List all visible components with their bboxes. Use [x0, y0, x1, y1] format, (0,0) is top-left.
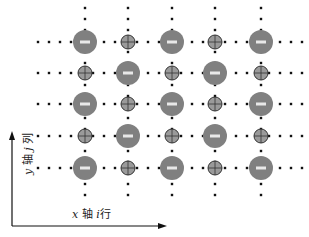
grid-dot	[301, 135, 303, 137]
anion-ion	[249, 156, 273, 180]
grid-dot	[37, 41, 39, 43]
grid-dot	[59, 135, 61, 137]
minus-icon	[80, 103, 90, 106]
x-axis-var: x	[72, 208, 78, 221]
grid-dot	[127, 7, 129, 9]
grid-dot	[158, 72, 160, 74]
y-axis-arrow-icon	[9, 131, 15, 140]
anion-ion	[203, 61, 227, 85]
grid-dot	[214, 183, 216, 185]
grid-dot	[114, 135, 116, 137]
grid-dot	[59, 72, 61, 74]
minus-icon	[167, 41, 177, 44]
grid-dot	[171, 18, 173, 20]
grid-dot	[48, 103, 50, 105]
anion-ion	[160, 156, 184, 180]
cation-ion	[165, 66, 179, 80]
grid-dot	[103, 41, 105, 43]
grid-dot	[84, 7, 86, 9]
grid-dot	[235, 135, 237, 137]
cation-ion	[78, 129, 92, 143]
grid-dot	[191, 103, 193, 105]
grid-dot	[70, 103, 72, 105]
minus-icon	[210, 72, 220, 75]
grid-dot	[290, 72, 292, 74]
grid-dot	[171, 62, 173, 64]
grid-dot	[191, 41, 193, 43]
grid-dot	[103, 135, 105, 137]
grid-dot	[246, 135, 248, 137]
grid-dot	[260, 117, 262, 119]
grid-dot	[127, 194, 129, 196]
grid-dot	[171, 7, 173, 9]
grid-dot	[70, 72, 72, 74]
grid-dot	[136, 41, 138, 43]
grid-dot	[59, 41, 61, 43]
grid-dot	[214, 194, 216, 196]
grid-dot	[171, 84, 173, 86]
cation-ion	[254, 66, 268, 80]
cation-ion	[121, 97, 135, 111]
grid-dot	[224, 41, 226, 43]
grid-dot	[260, 194, 262, 196]
anion-ion	[203, 124, 227, 148]
y-axis-index: j	[22, 147, 35, 150]
grid-dot	[191, 167, 193, 169]
minus-icon	[80, 41, 90, 44]
minus-icon	[256, 103, 266, 106]
x-axis-arrow-icon	[158, 223, 167, 229]
grid-dot	[235, 72, 237, 74]
grid-dot	[180, 135, 182, 137]
grid-dot	[136, 167, 138, 169]
grid-dot	[147, 103, 149, 105]
anion-ion	[160, 92, 184, 116]
grid-dot	[147, 72, 149, 74]
grid-dot	[180, 72, 182, 74]
grid-dot	[191, 135, 193, 137]
anion-ion	[73, 156, 97, 180]
grid-dot	[59, 103, 61, 105]
grid-dot	[147, 135, 149, 137]
cation-ion	[208, 35, 222, 49]
grid-dot	[103, 167, 105, 169]
grid-dot	[279, 135, 281, 137]
grid-dot	[214, 7, 216, 9]
grid-dot	[70, 167, 72, 169]
grid-dot	[301, 41, 303, 43]
grid-dot	[84, 183, 86, 185]
grid-dot	[214, 150, 216, 152]
grid-dot	[260, 84, 262, 86]
grid-dot	[84, 117, 86, 119]
grid-dot	[246, 167, 248, 169]
cation-ion	[208, 97, 222, 111]
grid-dot	[279, 41, 281, 43]
grid-dot	[260, 183, 262, 185]
anion-ion	[249, 30, 273, 54]
cation-ion	[121, 35, 135, 49]
anion-ion	[249, 92, 273, 116]
cation-ion	[121, 161, 135, 175]
grid-dot	[70, 135, 72, 137]
grid-dot	[235, 41, 237, 43]
cation-ion	[208, 161, 222, 175]
anion-ion	[160, 30, 184, 54]
grid-dot	[246, 103, 248, 105]
grid-dot	[224, 103, 226, 105]
grid-dot	[114, 41, 116, 43]
grid-dot	[114, 167, 116, 169]
grid-dot	[84, 194, 86, 196]
grid-dot	[246, 72, 248, 74]
minus-icon	[123, 72, 133, 75]
grid-dot	[48, 72, 50, 74]
grid-dot	[301, 72, 303, 74]
grid-dot	[279, 103, 281, 105]
grid-dot	[214, 18, 216, 20]
grid-dot	[127, 183, 129, 185]
anion-ion	[73, 92, 97, 116]
cation-ion	[254, 129, 268, 143]
grid-dot	[202, 41, 204, 43]
grid-dot	[70, 41, 72, 43]
anion-ion	[73, 30, 97, 54]
minus-icon	[256, 167, 266, 170]
grid-dot	[158, 135, 160, 137]
